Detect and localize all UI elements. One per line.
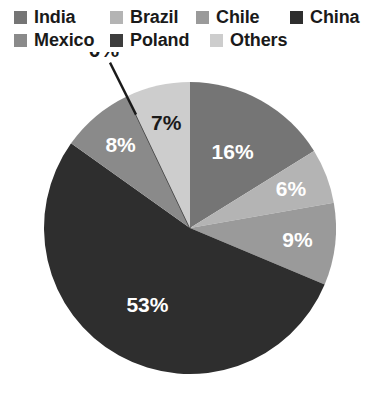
pie-chart: 16%6%9%53%8%7% 0% (0, 52, 383, 393)
legend-item-chile[interactable]: Chile (196, 8, 260, 26)
legend-label-mexico: Mexico (34, 31, 94, 49)
legend-item-china[interactable]: China (290, 8, 360, 26)
pie-data-label-mexico: 8% (105, 133, 136, 156)
pie-data-label-chile: 9% (282, 228, 313, 251)
legend-label-india: India (34, 8, 76, 26)
legend-label-others: Others (230, 31, 287, 49)
legend-item-brazil[interactable]: Brazil (110, 8, 178, 26)
pie-data-label-brazil: 6% (276, 177, 307, 200)
legend-item-poland[interactable]: Poland (110, 31, 189, 49)
legend-item-india[interactable]: India (14, 8, 76, 26)
legend-label-chile: Chile (216, 8, 260, 26)
legend-swatch-mexico (14, 34, 27, 47)
legend-item-others[interactable]: Others (210, 31, 287, 49)
legend-swatch-others (210, 34, 223, 47)
pie-chart-svg: 16%6%9%53%8%7% 0% (0, 52, 383, 393)
legend-swatch-brazil (110, 11, 123, 24)
legend-label-brazil: Brazil (130, 8, 178, 26)
legend-label-poland: Poland (130, 31, 189, 49)
chart-legend: India Brazil Chile China Mexico Poland O… (0, 0, 383, 52)
legend-swatch-chile (196, 11, 209, 24)
pie-data-label-others: 7% (151, 111, 182, 134)
legend-swatch-china (290, 11, 303, 24)
legend-item-mexico[interactable]: Mexico (14, 31, 94, 49)
legend-swatch-india (14, 11, 27, 24)
pie-data-label-china: 53% (126, 293, 168, 316)
legend-label-china: China (310, 8, 360, 26)
legend-swatch-poland (110, 34, 123, 47)
pie-data-label-poland: 0% (89, 52, 120, 61)
pie-data-label-india: 16% (212, 140, 254, 163)
